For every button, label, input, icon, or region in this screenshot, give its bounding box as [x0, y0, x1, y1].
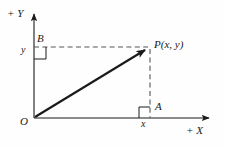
coordinate-diagram: + Y + X P(x, y) O B A y x — [0, 0, 225, 146]
point-b-label: B — [37, 33, 44, 44]
point-a-label: A — [155, 101, 162, 112]
right-angle-mark-b — [34, 47, 46, 59]
ordinate-label: y — [21, 45, 25, 55]
origin-label: O — [20, 116, 28, 127]
vector-op — [35, 50, 145, 117]
x-axis-label: + X — [186, 125, 203, 136]
abscissa-label: x — [141, 119, 145, 129]
right-angle-mark-a — [139, 107, 150, 118]
y-axis-label: + Y — [7, 8, 23, 19]
point-p-label: P(x, y) — [154, 39, 183, 50]
